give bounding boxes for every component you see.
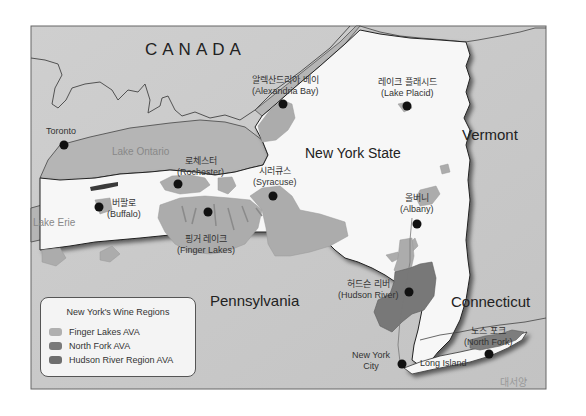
city-new-york-city: New York City <box>352 350 390 372</box>
city-syracuse: 시러큐스 (Syracuse) <box>253 166 297 188</box>
city-toronto: Toronto <box>46 126 76 137</box>
legend-title: New York's Wine Regions <box>41 307 195 317</box>
legend: New York's Wine Regions Finger Lakes AVA… <box>40 297 196 377</box>
city-north-fork: 노스 포크 (North Fork) <box>464 326 513 348</box>
label-lake-ontario: Lake Ontario <box>112 146 169 157</box>
label-connecticut: Connecticut <box>451 293 530 310</box>
swatch-north-fork <box>49 342 62 350</box>
label-ny-state: New York State <box>305 145 401 161</box>
swatch-finger-lakes <box>49 328 62 336</box>
city-lake-placid: 레이크 플래시드 (Lake Placid) <box>378 77 437 99</box>
legend-item-north-fork: North Fork AVA <box>49 341 130 351</box>
city-buffalo: 버팔로 (Buffalo) <box>107 198 141 220</box>
swatch-hudson-river <box>49 356 62 364</box>
label-atlantic: 대서양 <box>500 374 527 389</box>
label-vermont: Vermont <box>462 126 518 143</box>
city-hudson-river: 허드슨 리버 (Hudson River) <box>338 279 399 301</box>
legend-item-finger-lakes: Finger Lakes AVA <box>49 327 140 337</box>
city-albany: 올버니 (Albany) <box>400 193 434 215</box>
city-alexandria-bay: 알렉산드리아 베이 (Alexandria Bay) <box>252 75 319 97</box>
label-pennsylvania: Pennsylvania <box>210 292 299 309</box>
label-canada: CANADA <box>145 40 246 60</box>
city-long-island: Long Island <box>420 358 467 369</box>
city-rochester: 로체스터 (Rochester) <box>177 156 224 178</box>
legend-item-hudson-river: Hudson River Region AVA <box>49 355 173 365</box>
label-lake-erie: Lake Erie <box>33 217 75 228</box>
city-finger-lakes: 핑거 레이크 (Finger Lakes) <box>177 234 235 256</box>
